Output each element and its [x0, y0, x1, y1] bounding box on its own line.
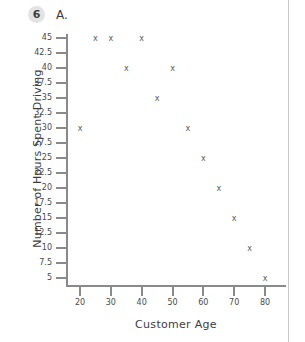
data-point-marker: x [153, 94, 162, 103]
data-point-marker: x [168, 64, 177, 73]
x-axis-tick-label: 80 [253, 299, 277, 307]
x-axis-tick-label: 40 [130, 299, 154, 307]
data-point-marker: x [183, 124, 192, 133]
y-axis-tick [56, 82, 66, 84]
scatter-plot: 57.51012.51517.52022.52527.53032.53537.5… [0, 0, 305, 342]
y-axis-tick-label: 40 [6, 64, 52, 72]
y-axis-tick [56, 127, 66, 129]
y-axis-tick [56, 202, 66, 204]
y-axis-tick [56, 67, 66, 69]
y-axis-tick [56, 277, 66, 279]
y-axis-tick [56, 157, 66, 159]
y-axis-tick-label: 20 [6, 184, 52, 192]
x-axis-tick [110, 287, 112, 296]
y-axis-tick [56, 247, 66, 249]
x-axis-tick [172, 287, 174, 296]
y-axis-tick [56, 232, 66, 234]
data-point-marker: x [122, 64, 131, 73]
data-point-marker: x [76, 124, 85, 133]
y-axis-tick-label: 22.5 [6, 169, 52, 177]
data-point-marker: x [214, 184, 223, 193]
y-axis-tick-label: 42.5 [6, 49, 52, 57]
y-axis-title: Number of Hours Spent Driving [31, 44, 44, 274]
data-point-marker: x [261, 274, 270, 283]
y-axis-tick [56, 112, 66, 114]
x-axis-tick-label: 70 [222, 299, 246, 307]
y-axis-tick [56, 217, 66, 219]
y-axis-tick [56, 37, 66, 39]
y-axis-tick-label: 30 [6, 124, 52, 132]
y-axis-tick [56, 142, 66, 144]
x-axis-tick-label: 60 [191, 299, 215, 307]
x-axis-line [66, 285, 286, 287]
y-axis-tick-label: 17.5 [6, 199, 52, 207]
data-point-marker: x [199, 154, 208, 163]
y-axis-tick-label: 15 [6, 214, 52, 222]
x-axis-tick [141, 287, 143, 296]
x-axis-tick [233, 287, 235, 296]
y-axis-tick [56, 172, 66, 174]
data-point-marker: x [137, 34, 146, 43]
data-point-marker: x [106, 34, 115, 43]
y-axis-tick-label: 32.5 [6, 109, 52, 117]
y-axis-tick [56, 52, 66, 54]
y-axis-tick-label: 5 [6, 274, 52, 282]
data-point-marker: x [245, 244, 254, 253]
y-axis-tick-label: 7.5 [6, 259, 52, 267]
data-point-marker: x [230, 214, 239, 223]
y-axis-tick-label: 45 [6, 34, 52, 42]
x-axis-title: Customer Age [66, 318, 286, 331]
x-axis-tick-label: 50 [161, 299, 185, 307]
y-axis-tick [56, 187, 66, 189]
x-axis-tick-label: 20 [68, 299, 92, 307]
y-axis-tick-label: 10 [6, 244, 52, 252]
y-axis-tick-label: 27.5 [6, 139, 52, 147]
y-axis-tick-label: 25 [6, 154, 52, 162]
y-axis-tick [56, 262, 66, 264]
y-axis-tick-label: 35 [6, 94, 52, 102]
x-axis-tick [79, 287, 81, 296]
x-axis-tick [202, 287, 204, 296]
y-axis-tick-label: 12.5 [6, 229, 52, 237]
x-axis-tick-label: 30 [99, 299, 123, 307]
y-axis-line [66, 34, 68, 286]
y-axis-tick [56, 97, 66, 99]
x-axis-tick [264, 287, 266, 296]
data-point-marker: x [91, 34, 100, 43]
y-axis-tick-label: 37.5 [6, 79, 52, 87]
